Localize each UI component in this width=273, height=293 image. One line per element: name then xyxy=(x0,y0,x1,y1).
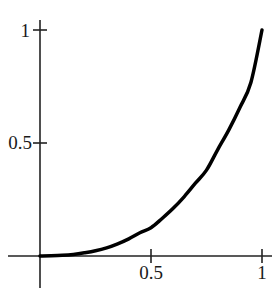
y-axis-tick-label-1: 1 xyxy=(21,21,31,40)
x-axis-tick-label-05: 0.5 xyxy=(130,263,172,282)
x-axis-tick-label-1: 1 xyxy=(252,263,272,282)
chart-figure: 1 0.5 0.5 1 xyxy=(0,0,273,293)
plot-canvas xyxy=(0,0,273,293)
y-axis-tick-label-05: 0.5 xyxy=(8,133,32,152)
plot-background xyxy=(0,0,273,293)
